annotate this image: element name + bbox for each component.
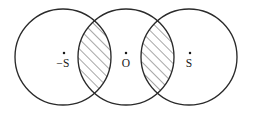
- right-atom-label: S: [186, 57, 193, 69]
- left-atom-label: −S: [56, 57, 69, 69]
- center-atom-label: O: [122, 57, 131, 69]
- right-lone-pair-dot: [189, 52, 192, 55]
- left-lone-pair-dot: [63, 52, 66, 55]
- overlapping-circles-diagram: −S O S: [0, 0, 253, 116]
- figure-container: −S O S: [0, 0, 253, 116]
- center-lone-pair-dot: [125, 52, 128, 55]
